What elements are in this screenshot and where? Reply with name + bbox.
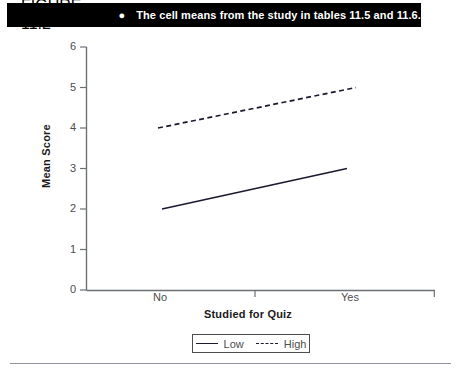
x-tick-label-no: No: [130, 291, 190, 303]
legend-item-low: Low: [196, 338, 244, 350]
legend-label-high: High: [284, 338, 307, 350]
chart-plot-area: 6 5 4 3 2 1 0 No Yes Mean Score Studied …: [0, 0, 461, 373]
y-axis-title: Mean Score: [40, 101, 52, 211]
chart-legend: Low High: [192, 334, 310, 353]
y-tick-label-5: 5: [56, 81, 76, 93]
legend-label-low: Low: [224, 338, 244, 350]
legend-swatch-dashed-icon: [256, 343, 278, 344]
y-tick-label-4: 4: [56, 121, 76, 133]
legend-item-high: High: [256, 338, 307, 350]
y-tick-label-0: 0: [56, 283, 76, 295]
x-axis-title: Studied for Quiz: [158, 308, 338, 320]
series-line-high: [158, 88, 356, 129]
y-axis-ticks: [80, 47, 87, 290]
x-tick-label-yes: Yes: [320, 291, 380, 303]
y-tick-label-2: 2: [56, 202, 76, 214]
y-tick-label-3: 3: [56, 162, 76, 174]
y-tick-label-6: 6: [56, 40, 76, 52]
legend-swatch-solid-icon: [196, 343, 218, 344]
bottom-divider: [10, 363, 451, 364]
y-tick-label-1: 1: [56, 243, 76, 255]
series-line-low: [162, 169, 347, 210]
